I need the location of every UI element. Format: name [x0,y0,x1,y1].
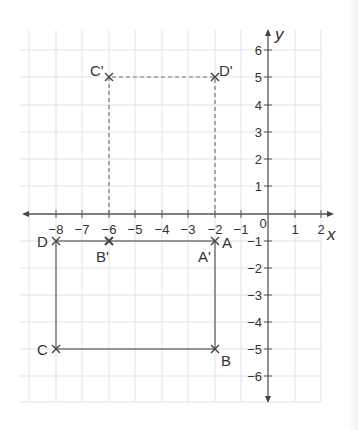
x-axis-left-arrow-icon [22,211,29,217]
page-edge-shadow [348,0,358,430]
y-tick-label: 5 [255,70,262,85]
y-tick-label: 6 [255,43,262,58]
point-a-prime-label: A' [198,248,211,265]
x-tick-label: −2 [208,222,223,237]
x-tick-label: −8 [49,222,64,237]
x-tick-label: −5 [128,222,143,237]
grid [20,30,322,402]
y-tick-label: 2 [255,152,262,167]
y-tick-label: −4 [247,315,262,330]
y-tick-label: −1 [247,234,262,249]
y-tick-label: 3 [255,125,262,140]
y-tick-label: −3 [247,288,262,303]
x-tick-label: −6 [102,222,117,237]
y-axis-up-arrow-icon [265,29,271,36]
point-d-prime-label: D' [219,62,233,79]
y-tick-label: −6 [247,369,262,384]
x-axis-right-arrow-icon [327,211,334,217]
y-axis-label: y [274,25,285,44]
point-d-label: D [37,233,48,250]
x-axis-label: x [326,225,336,244]
x-tick-label: −7 [75,222,90,237]
origin-label: 0 [259,216,266,231]
y-tick-label: 4 [255,98,262,113]
x-tick-label: 1 [291,222,298,237]
y-tick-label: −5 [247,342,262,357]
x-tick-label: −3 [181,222,196,237]
y-tick-label: −2 [247,261,262,276]
x-tick-label: 2 [317,222,324,237]
y-tick-label: 1 [255,179,262,194]
point-b-prime-label: B' [96,248,109,265]
x-tick-label: −4 [155,222,170,237]
coordinate-plane: −8 −7 −6 −5 −4 −3 −2 −1 0 1 2 x 6 5 4 3 … [0,0,358,430]
point-c-label: C [37,341,48,358]
point-b-label: B [221,352,231,369]
point-a-label: A [222,234,232,251]
point-c-prime-label: C' [90,62,104,79]
